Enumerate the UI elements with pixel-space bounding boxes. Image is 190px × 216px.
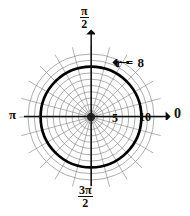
- polar-grid-canvas: [0, 0, 190, 216]
- axis-label-bottom-denominator: 2: [78, 197, 93, 209]
- radial-tick-label-5: 5: [112, 112, 118, 124]
- axis-label-top-numerator: π: [80, 5, 89, 18]
- radial-tick-label-10: 10: [139, 111, 151, 123]
- axis-label-pi-over-2: π 2: [80, 5, 89, 31]
- polar-axes: [24, 32, 168, 186]
- axis-label-zero: 0: [174, 107, 181, 121]
- curve-annotation-r-equals-8: r = 8: [116, 56, 144, 69]
- axis-label-three-pi-over-2: 3π 2: [78, 184, 93, 210]
- polar-plot-figure: π 2 3π 2 π 0 r = 8 5 10: [0, 0, 190, 216]
- axis-label-bottom-numerator: 3π: [78, 184, 93, 197]
- axis-label-top-denominator: 2: [80, 18, 89, 30]
- axis-label-pi: π: [9, 108, 16, 121]
- origin-marker: [87, 113, 95, 121]
